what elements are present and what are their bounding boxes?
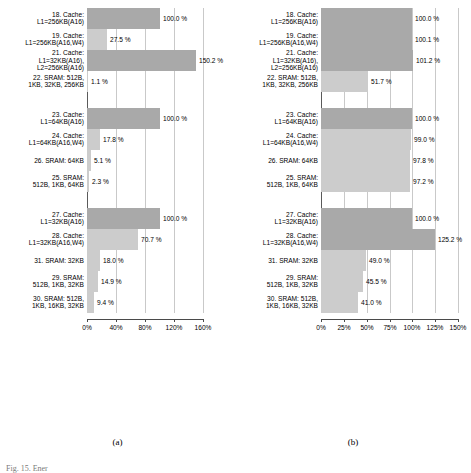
x-axis-tick (412, 319, 413, 322)
bar-category-label: 23. Cache:L1=64KB(A16) (235, 111, 318, 126)
bar-category-label: 24. Cache:L1=64KB(A16,W4) (0, 132, 84, 147)
x-axis-tick (87, 319, 88, 322)
figure-bottom-caption: Fig. 15. Ener (6, 464, 48, 473)
x-axis-tick (116, 319, 117, 322)
bar[interactable] (87, 29, 107, 50)
bar[interactable] (321, 271, 363, 292)
bar-value-label: 1.1 % (91, 78, 108, 85)
bar-value-label: 125.2 % (438, 236, 462, 243)
bar-category-label: 30. SRAM: 512B,1KB, 16KB, 32KB (0, 295, 84, 310)
bar-category-label: 23. Cache:L1=64KB(A16) (0, 111, 84, 126)
bar-category-label: 21. Cache:L1=32KB(A16),L2=256KB(A16) (0, 49, 84, 72)
bar-value-label: 49.0 % (369, 257, 390, 264)
panel-a-caption: (a) (0, 437, 235, 447)
bar-value-label: 150.2 % (199, 57, 223, 64)
bar[interactable] (87, 250, 100, 271)
bar-category-label: 22. SRAM: 512B,1KB, 32KB, 256KB (235, 74, 318, 89)
chart-panel-b: 100.0 %100.1 %101.2 %51.7 %100.0 %99.0 %… (235, 0, 471, 471)
bar[interactable] (321, 171, 410, 192)
chart-panel-a: 100.0 %27.5 %150.2 %1.1 %100.0 %17.8 %5.… (0, 0, 235, 471)
x-axis-tick-label: 120% (160, 324, 188, 331)
bar[interactable] (321, 8, 412, 29)
bar-value-label: 100.0 % (163, 215, 187, 222)
bar-category-label: 19. Cache:L1=256KB(A16,W4) (235, 32, 318, 47)
bar-category-label: 28. Cache:L1=32KB(A16,W4) (0, 232, 84, 247)
bar-value-label: 70.7 % (141, 236, 162, 243)
x-axis-tick (435, 319, 436, 322)
bar-value-label: 100.0 % (163, 115, 187, 122)
bar[interactable] (87, 208, 160, 229)
gridline (203, 8, 204, 313)
bar-value-label: 97.2 % (413, 178, 434, 185)
bar-category-label: 27. Cache:L1=32KB(A16) (0, 211, 84, 226)
plot-area-b: 100.0 %100.1 %101.2 %51.7 %100.0 %99.0 %… (321, 8, 458, 313)
bar-value-label: 18.0 % (103, 257, 124, 264)
bar-value-label: 27.5 % (110, 36, 131, 43)
x-axis-tick (390, 319, 391, 322)
bar-category-label: 26. SRAM: 64KB (0, 157, 84, 165)
bar[interactable] (321, 150, 410, 171)
bar-value-label: 101.2 % (416, 57, 440, 64)
bar-category-label: 18. Cache:L1=256KB(A16) (0, 11, 84, 26)
bar-value-label: 100.0 % (163, 15, 187, 22)
bar-category-label: 31. SRAM: 32KB (235, 257, 318, 265)
gridline (458, 8, 459, 313)
x-axis-tick (203, 319, 204, 322)
bar[interactable] (321, 250, 366, 271)
bar[interactable] (321, 108, 412, 129)
bar[interactable] (321, 208, 412, 229)
bar-value-label: 41.0 % (361, 299, 382, 306)
x-axis-tick (344, 319, 345, 322)
x-axis-tick-label: 150% (444, 324, 471, 331)
x-axis-tick (174, 319, 175, 322)
bar[interactable] (87, 8, 160, 29)
bar-category-label: 26. SRAM: 64KB (235, 157, 318, 165)
bar[interactable] (321, 229, 435, 250)
bar-value-label: 99.0 % (414, 136, 435, 143)
bar[interactable] (87, 292, 94, 313)
bar[interactable] (87, 129, 100, 150)
plot-area-a: 100.0 %27.5 %150.2 %1.1 %100.0 %17.8 %5.… (87, 8, 203, 313)
bar[interactable] (87, 108, 160, 129)
bar-value-label: 14.9 % (101, 278, 122, 285)
x-axis-tick-label: 40% (102, 324, 130, 331)
bar[interactable] (321, 71, 368, 92)
bar-value-label: 51.7 % (371, 78, 392, 85)
bar-value-label: 5.1 % (94, 157, 111, 164)
bar-category-label: 27. Cache:L1=32KB(A16) (235, 211, 318, 226)
bar-value-label: 100.0 % (415, 15, 439, 22)
bar-category-label: 29. SRAM:512B, 1KB, 32KB (235, 274, 318, 289)
bar-category-label: 21. Cache:L1=32KB(A16),L2=256KB(A16) (235, 49, 318, 72)
bar[interactable] (87, 171, 89, 192)
bar-category-label: 30. SRAM: 512B,1KB, 16KB, 32KB (235, 295, 318, 310)
x-axis-tick (145, 319, 146, 322)
gridline (435, 8, 436, 313)
bar-value-label: 100.1 % (415, 36, 439, 43)
bar-category-label: 22. SRAM: 512B,1KB, 32KB, 256KB (0, 74, 84, 89)
x-axis-tick (458, 319, 459, 322)
bar[interactable] (87, 229, 138, 250)
bar-category-label: 19. Cache:L1=256KB(A16,W4) (0, 32, 84, 47)
bar-value-label: 100.0 % (415, 215, 439, 222)
bar-category-label: 18. Cache:L1=256KB(A16) (235, 11, 318, 26)
bar-value-label: 9.4 % (97, 299, 114, 306)
bar-category-label: 24. Cache:L1=64KB(A16,W4) (235, 132, 318, 147)
bar[interactable] (321, 50, 413, 71)
bar[interactable] (87, 150, 91, 171)
bar-value-label: 100.0 % (415, 115, 439, 122)
bar[interactable] (87, 50, 196, 71)
bar[interactable] (321, 29, 412, 50)
bar-category-label: 28. Cache:L1=32KB(A16,W4) (235, 232, 318, 247)
x-axis-tick-label: 80% (131, 324, 159, 331)
x-axis-tick-label: 0% (73, 324, 101, 331)
x-axis-tick (321, 319, 322, 322)
bar[interactable] (87, 71, 88, 92)
bar[interactable] (321, 129, 411, 150)
bar-value-label: 17.8 % (103, 136, 124, 143)
bar[interactable] (87, 271, 98, 292)
x-axis-tick-label: 160% (189, 324, 217, 331)
bar-category-label: 25. SRAM:512B, 1KB, 64KB (0, 174, 84, 189)
bar[interactable] (321, 292, 358, 313)
panel-b-caption: (b) (235, 437, 471, 447)
bar-value-label: 97.8 % (413, 157, 434, 164)
